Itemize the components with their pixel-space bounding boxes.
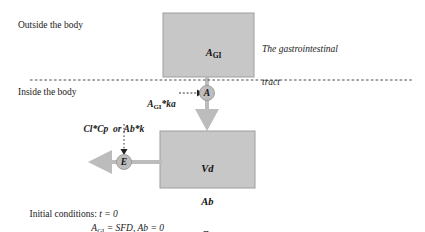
- outside-body-label: Outside the body: [18, 20, 83, 31]
- inside-body-label: Inside the body: [18, 87, 77, 98]
- elimination-arrowhead-left: [88, 150, 112, 174]
- pk-model-diagram: Outside the body Inside the body AGI The…: [0, 0, 425, 232]
- gi-compartment-label: AGI: [163, 36, 254, 71]
- gi-tract-caption: The gastrointestinal tract: [262, 22, 338, 109]
- body-label-cp: Cp: [160, 229, 255, 232]
- absorption-arrowhead-down: [195, 109, 219, 131]
- body-compartment-labels: Vd Ab Cp: [160, 141, 255, 232]
- body-label-ab: Ab: [160, 196, 255, 207]
- gi-tract-caption-line2: tract: [262, 77, 338, 88]
- elimination-rate-expr-2: Ab*k: [124, 124, 145, 134]
- initial-conditions-line2: AGI = SFD, Ab = 0: [82, 212, 164, 232]
- absorption-rate-tail: *ka: [161, 99, 175, 109]
- gi-label-base: A: [206, 47, 213, 58]
- absorption-stem-lower: [205, 100, 209, 110]
- elimination-rate-expr-1: Cl*Cp: [84, 124, 109, 134]
- absorption-node-label: A: [200, 88, 214, 98]
- initial-conditions-agi-tail: = SFD, Ab = 0: [104, 223, 164, 232]
- elimination-rate-or: or: [113, 124, 121, 134]
- elimination-node-label: E: [117, 157, 131, 167]
- body-label-vd: Vd: [160, 163, 255, 174]
- gi-tract-caption-line1: The gastrointestinal: [262, 44, 338, 55]
- elimination-rate-expression: Cl*Cp or Ab*k: [74, 113, 144, 146]
- gi-label-subscript: GI: [213, 51, 222, 60]
